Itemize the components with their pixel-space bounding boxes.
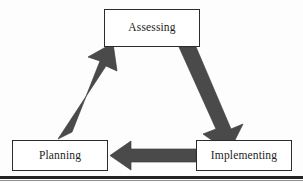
node-implementing-label: Implementing xyxy=(211,150,277,162)
arrow-assessing-to-implementing xyxy=(179,47,243,152)
node-planning[interactable]: Planning xyxy=(12,140,108,171)
bottom-divider-rule xyxy=(0,176,303,179)
process-cycle-figure: Assessing Planning Implementing xyxy=(0,0,303,183)
arrow-planning-to-assessing xyxy=(58,43,117,139)
node-assessing[interactable]: Assessing xyxy=(104,9,200,47)
arrow-implementing-to-planning xyxy=(110,141,196,170)
node-implementing[interactable]: Implementing xyxy=(196,140,292,171)
node-assessing-label: Assessing xyxy=(128,22,175,34)
bottom-divider-hairline xyxy=(0,180,303,181)
node-planning-label: Planning xyxy=(39,150,81,162)
